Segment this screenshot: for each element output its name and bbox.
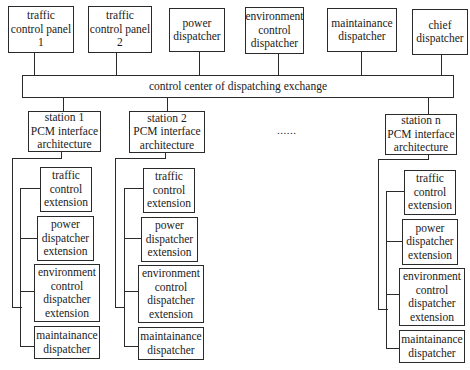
connector-line xyxy=(278,54,279,75)
maintainance-dispatcher-box: maintainance dispatcher xyxy=(138,327,204,360)
power-dispatcher-extension-box: power dispatcher extension xyxy=(37,216,94,261)
environment-control-dispatcher-extension-box: environment control dispatcher extension xyxy=(399,268,465,326)
traffic-control-panel-1-box: traffic control panel 1 xyxy=(8,6,74,53)
connector-line xyxy=(124,188,143,189)
maintainance-dispatcher-box: maintainance dispatcher xyxy=(327,8,397,52)
connector-line xyxy=(20,346,34,347)
power-dispatcher-box: power dispatcher xyxy=(169,8,225,52)
connector-line xyxy=(199,52,200,75)
connector-line xyxy=(378,159,429,160)
connector-line xyxy=(20,188,40,189)
ellipsis: ...... xyxy=(277,124,297,136)
connector-line xyxy=(361,52,362,75)
connector-line xyxy=(441,55,442,75)
power-dispatcher-extension-box: power dispatcher extension xyxy=(141,217,198,262)
connector-line xyxy=(386,191,404,192)
connector-line xyxy=(34,53,35,75)
maintainance-dispatcher-box: maintainance dispatcher xyxy=(399,330,465,363)
station-1-box: station 1 PCM interface architecture xyxy=(28,111,101,152)
station-n-box: station n PCM interface architecture xyxy=(385,114,457,155)
traffic-control-extension-box: traffic control extension xyxy=(143,168,195,213)
connector-line xyxy=(20,188,21,347)
connector-line xyxy=(124,188,125,347)
environment-control-dispatcher-extension-box: environment control dispatcher extension xyxy=(34,264,100,322)
environment-control-dispatcher-extension-box: environment control dispatcher extension xyxy=(138,265,204,323)
connector-line xyxy=(386,348,399,349)
connector-line xyxy=(386,191,387,349)
power-dispatcher-extension-box: power dispatcher extension xyxy=(402,219,458,265)
chief-dispatcher-box: chief dispatcher xyxy=(412,9,468,55)
connector-line xyxy=(115,158,166,159)
connector-line xyxy=(116,53,117,75)
environment-control-dispatcher-box: environment control dispatcher xyxy=(245,7,304,54)
connector-line xyxy=(63,98,64,111)
traffic-control-extension-box: traffic control extension xyxy=(404,170,456,215)
connector-line xyxy=(124,291,138,292)
traffic-control-extension-box: traffic control extension xyxy=(40,167,92,212)
connector-line xyxy=(378,159,379,310)
connector-line xyxy=(12,158,62,159)
connector-line xyxy=(20,238,37,239)
connector-line xyxy=(124,346,138,347)
connector-line xyxy=(386,294,399,295)
station-2-box: station 2 PCM interface architecture xyxy=(129,111,205,153)
connector-line xyxy=(167,98,168,111)
control-center-box: control center of dispatching exchange xyxy=(22,75,454,98)
connector-line xyxy=(124,238,141,239)
traffic-control-panel-2-box: traffic control panel 2 xyxy=(88,6,152,53)
connector-line xyxy=(12,158,13,308)
maintainance-dispatcher-box: maintainance dispatcher xyxy=(34,326,100,359)
connector-line xyxy=(386,241,402,242)
connector-line xyxy=(115,158,116,308)
connector-line xyxy=(428,98,429,114)
connector-line xyxy=(20,291,34,292)
